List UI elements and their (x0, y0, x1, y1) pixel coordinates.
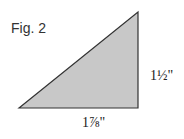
height-dimension: 1½" (150, 68, 173, 84)
width-dimension: 1⅞" (82, 115, 105, 131)
right-triangle (19, 12, 138, 108)
